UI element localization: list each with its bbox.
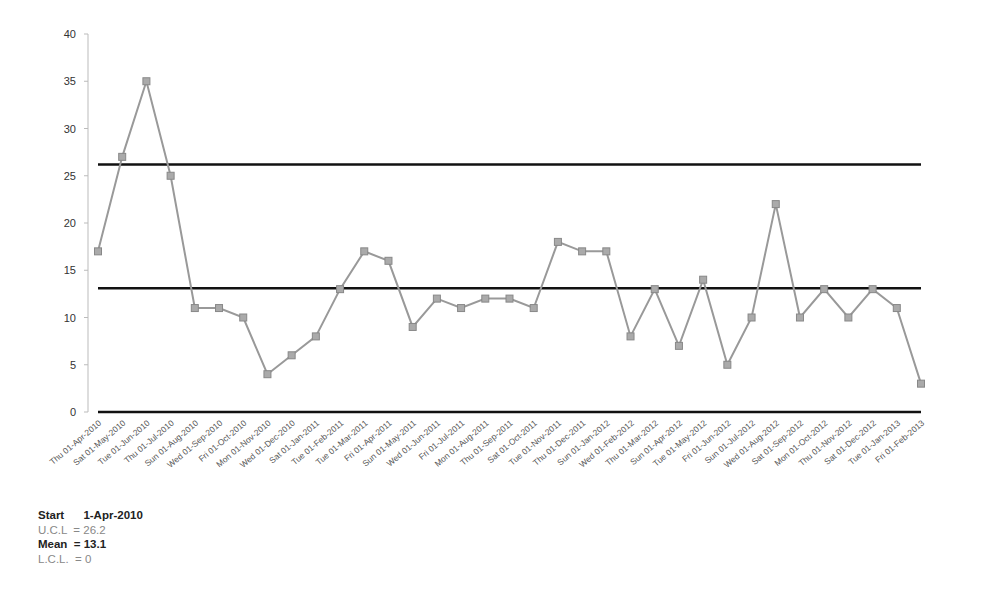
data-point-marker xyxy=(337,286,344,293)
data-point-marker xyxy=(579,248,586,255)
data-point-marker xyxy=(385,257,392,264)
y-tick-label: 10 xyxy=(64,312,76,324)
data-point-marker xyxy=(312,333,319,340)
data-point-marker xyxy=(240,314,247,321)
mean-row: Mean = 13.1 xyxy=(38,537,143,552)
y-tick-label: 20 xyxy=(64,217,76,229)
ucl-row: U.C.L = 26.2 xyxy=(38,523,143,538)
y-tick-label: 30 xyxy=(64,123,76,135)
data-point-marker xyxy=(264,371,271,378)
start-row: Start 1-Apr-2010 xyxy=(38,508,143,523)
data-point-marker xyxy=(361,248,368,255)
data-point-marker xyxy=(409,323,416,330)
data-point-marker xyxy=(458,305,465,312)
data-point-marker xyxy=(482,295,489,302)
data-point-marker xyxy=(724,361,731,368)
data-point-marker xyxy=(216,305,223,312)
data-point-marker xyxy=(821,286,828,293)
chart-summary: Start 1-Apr-2010 U.C.L = 26.2 Mean = 13.… xyxy=(38,508,143,566)
data-point-marker xyxy=(869,286,876,293)
data-point-marker xyxy=(95,248,102,255)
data-point-marker xyxy=(893,305,900,312)
y-tick-label: 35 xyxy=(64,75,76,87)
y-tick-label: 0 xyxy=(70,406,76,418)
data-point-marker xyxy=(796,314,803,321)
y-tick-label: 15 xyxy=(64,264,76,276)
control-chart: 0510152025303540 Thu 01-Apr-2010Sat 01-M… xyxy=(0,0,982,500)
data-point-marker xyxy=(506,295,513,302)
x-axis: Thu 01-Apr-2010Sat 01-May-2010Tue 01-Jun… xyxy=(48,418,927,470)
data-point-marker xyxy=(772,201,779,208)
control-lines xyxy=(98,164,921,412)
data-point-marker xyxy=(143,78,150,85)
data-point-marker xyxy=(845,314,852,321)
data-point-marker xyxy=(748,314,755,321)
start-value: 1-Apr-2010 xyxy=(83,509,142,521)
y-tick-label: 25 xyxy=(64,170,76,182)
lcl-row: L.C.L. = 0 xyxy=(38,552,143,567)
data-point-marker xyxy=(651,286,658,293)
data-point-marker xyxy=(433,295,440,302)
data-point-marker xyxy=(627,333,634,340)
data-point-marker xyxy=(288,352,295,359)
start-label: Start xyxy=(38,509,64,521)
data-point-marker xyxy=(191,305,198,312)
data-point-marker xyxy=(119,153,126,160)
data-line xyxy=(98,81,921,383)
y-tick-label: 40 xyxy=(64,28,76,40)
data-series xyxy=(95,78,925,387)
data-point-marker xyxy=(675,342,682,349)
data-point-marker xyxy=(167,172,174,179)
y-axis: 0510152025303540 xyxy=(64,28,88,418)
data-point-marker xyxy=(918,380,925,387)
data-point-marker xyxy=(554,238,561,245)
data-point-marker xyxy=(530,305,537,312)
y-tick-label: 5 xyxy=(70,359,76,371)
data-point-marker xyxy=(700,276,707,283)
data-point-marker xyxy=(603,248,610,255)
